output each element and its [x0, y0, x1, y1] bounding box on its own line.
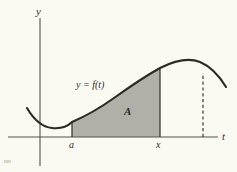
area-region-label: A — [124, 106, 131, 117]
curve-equation-label: y = f(t) — [76, 80, 104, 90]
figure-canvas — [0, 0, 237, 172]
figure-area-under-curve: y t y = f(t) A a x — [0, 0, 237, 172]
x-tick-label-a: a — [69, 140, 74, 150]
t-axis-label: t — [222, 131, 225, 142]
corner-smudge-mark — [4, 160, 11, 163]
x-tick-label-x: x — [156, 140, 160, 150]
y-axis-label: y — [36, 6, 41, 17]
